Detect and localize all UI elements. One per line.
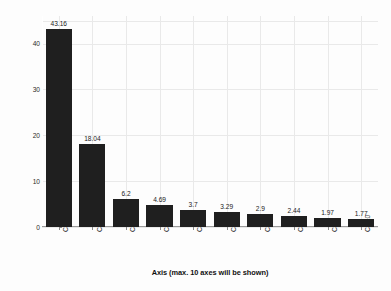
bar-value-label: 6.2 xyxy=(105,190,147,197)
bar-value-label: 1.77 xyxy=(340,210,382,217)
y-axis-line xyxy=(42,16,43,227)
x-tick-mark xyxy=(260,227,261,230)
eigenvalue-scree-chart: Eigenvalue in percent of total inertia A… xyxy=(0,0,391,291)
gridline-vertical xyxy=(160,16,161,227)
gridline-vertical xyxy=(260,16,261,227)
x-tick-mark xyxy=(294,227,295,230)
bar[interactable] xyxy=(146,205,172,227)
y-tick-label: 0 xyxy=(24,224,40,231)
x-tick-mark xyxy=(160,227,161,230)
y-tick-label: 10 xyxy=(24,178,40,185)
bar[interactable] xyxy=(46,29,72,227)
gridline-vertical xyxy=(294,16,295,227)
x-tick-mark xyxy=(361,227,362,230)
gridline-vertical xyxy=(361,16,362,227)
gridline-vertical xyxy=(193,16,194,227)
gridline-vertical xyxy=(227,16,228,227)
bar[interactable] xyxy=(214,212,240,227)
gridline-vertical xyxy=(328,16,329,227)
y-axis-ticks: 010203040 xyxy=(20,0,40,291)
x-tick-mark xyxy=(227,227,228,230)
y-tick-label: 20 xyxy=(24,132,40,139)
bar[interactable] xyxy=(79,144,105,227)
bar[interactable] xyxy=(247,214,273,227)
bar-value-label: 18.04 xyxy=(71,135,113,142)
bar[interactable] xyxy=(113,199,139,227)
x-tick-mark xyxy=(328,227,329,230)
x-tick-mark xyxy=(92,227,93,230)
x-tick-mark xyxy=(193,227,194,230)
y-tick-label: 30 xyxy=(24,86,40,93)
x-tick-mark xyxy=(126,227,127,230)
x-axis-title: Axis (max. 10 axes will be shown) xyxy=(44,268,376,277)
bar[interactable] xyxy=(348,219,374,227)
bar[interactable] xyxy=(180,210,206,227)
bar-value-label: 43.16 xyxy=(38,20,80,27)
bar[interactable] xyxy=(281,216,307,227)
y-tick-label: 40 xyxy=(24,40,40,47)
x-tick-mark xyxy=(59,227,60,230)
bar[interactable] xyxy=(314,218,340,227)
